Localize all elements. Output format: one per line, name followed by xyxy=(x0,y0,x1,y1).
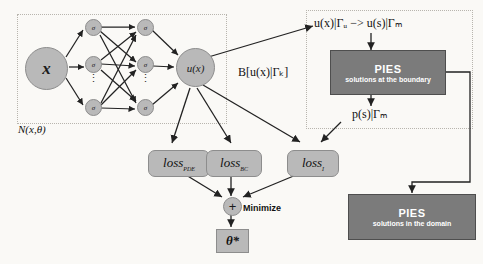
activation-label: σ xyxy=(92,24,95,32)
loss-pde-box: lossPDE xyxy=(148,150,210,177)
boundary-output-equation: p(s)|Γₘ xyxy=(352,107,387,122)
activation-label: σ xyxy=(144,24,147,32)
loss-pde-label: lossPDE xyxy=(163,155,195,172)
parameters-label: θ* xyxy=(226,233,239,249)
loss-i-label: lossI xyxy=(302,155,324,172)
activation-label: σ xyxy=(92,61,95,69)
pies-domain-title: PIES xyxy=(398,207,425,219)
pies-domain-subtitle: solutions in the domain xyxy=(373,220,452,227)
summation-node: + xyxy=(223,197,242,216)
ellipsis-layer-1: ⋮ xyxy=(86,76,100,80)
hidden-node-l1-1: σ xyxy=(85,19,102,36)
minimize-label: Minimize xyxy=(243,203,281,213)
loss-i-box: lossI xyxy=(287,150,339,177)
plus-icon: + xyxy=(229,199,237,214)
ellipsis-layer-2: ⋮ xyxy=(138,76,152,80)
input-node-x: x xyxy=(25,47,68,90)
hidden-node-l2-1: σ xyxy=(137,19,154,36)
hidden-node-l2-2: σ xyxy=(137,56,154,73)
boundary-operator-label: B[u(x)|Γₖ] xyxy=(238,65,288,80)
output-node-label: u(x) xyxy=(187,62,205,74)
output-node-ux: u(x) xyxy=(176,48,215,87)
activation-label: σ xyxy=(144,104,147,112)
loss-bc-label: lossBC xyxy=(220,155,248,172)
hidden-node-l1-3: σ xyxy=(85,99,102,116)
pies-domain-box: PIES solutions in the domain xyxy=(348,194,476,240)
input-node-label: x xyxy=(42,59,51,79)
diagram-canvas: x σ σ σ σ σ σ ⋮ ⋮ u(x) N(x,θ) u(x)|Γᵤ −>… xyxy=(0,0,483,264)
hidden-node-l1-2: σ xyxy=(85,56,102,73)
pies-boundary-box: PIES solutions at the boundary xyxy=(330,50,446,95)
activation-label: σ xyxy=(92,104,95,112)
pies-boundary-subtitle: solutions at the boundary xyxy=(345,76,431,83)
boundary-mapping-equation: u(x)|Γᵤ −> u(s)|Γₘ xyxy=(314,16,402,31)
loss-bc-box: lossBC xyxy=(206,150,262,177)
activation-label: σ xyxy=(144,61,147,69)
network-caption: N(x,θ) xyxy=(18,123,46,135)
pies-boundary-title: PIES xyxy=(374,63,401,75)
hidden-node-l2-3: σ xyxy=(137,99,154,116)
parameters-box: θ* xyxy=(216,229,249,253)
